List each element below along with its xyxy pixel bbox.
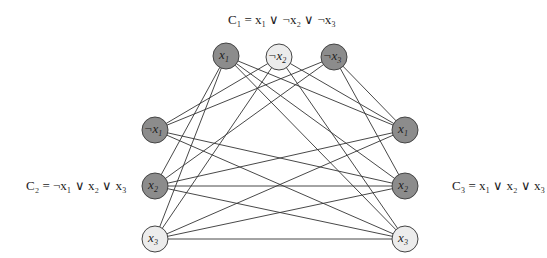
edge bbox=[226, 56, 405, 186]
edge bbox=[334, 57, 405, 130]
node-a3: ¬x3 bbox=[321, 44, 347, 70]
edge bbox=[226, 56, 405, 130]
clause-c2-label: C₂ = ¬x₁ ∨ x₂ ∨ x₃ bbox=[26, 178, 126, 194]
node-a2: ¬x2 bbox=[266, 44, 292, 70]
edge bbox=[155, 56, 226, 239]
edge bbox=[155, 57, 279, 130]
edges bbox=[155, 56, 405, 239]
node-b1: ¬x1 bbox=[142, 117, 168, 143]
node-c3: x3 bbox=[392, 226, 418, 252]
nodes: x1¬x2¬x3¬x1x2x3x1x2x3 bbox=[142, 43, 418, 252]
node-b2: x2 bbox=[142, 173, 168, 199]
node-b3: x3 bbox=[142, 226, 168, 252]
node-c1: x1 bbox=[392, 117, 418, 143]
node-c2: x2 bbox=[392, 173, 418, 199]
edge bbox=[279, 57, 405, 130]
clique-graph: x1¬x2¬x3¬x1x2x3x1x2x3 bbox=[0, 0, 547, 258]
node-a1: x1 bbox=[213, 43, 239, 69]
edge bbox=[155, 57, 334, 130]
edge bbox=[155, 57, 334, 186]
clause-c3-label: C₃ = x₁ ∨ x₂ ∨ x₃ bbox=[452, 178, 545, 194]
edge bbox=[334, 57, 405, 186]
edge bbox=[155, 56, 226, 186]
edge bbox=[226, 56, 405, 239]
clause-c1-label: C₁ = x₁ ∨ ¬x₂ ∨ ¬x₃ bbox=[228, 12, 336, 28]
